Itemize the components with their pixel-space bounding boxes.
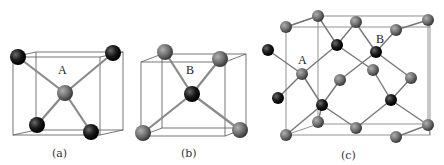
gray-atom-A: [57, 85, 73, 101]
gray-atom: [135, 125, 151, 141]
dark-atom: [10, 49, 26, 65]
caption-a: (a): [52, 147, 67, 160]
gray-atom: [232, 122, 248, 138]
caption-c: (c): [341, 149, 356, 162]
gray-atoms-c: [280, 10, 434, 143]
bonds-c: [268, 16, 428, 137]
dark-atom-B: [184, 86, 200, 102]
gray-atom: [212, 51, 228, 67]
site-label-c-a: A: [298, 53, 307, 68]
crystal-structure-figure: [0, 0, 444, 165]
dark-atom: [83, 124, 99, 140]
site-label-b: B: [186, 63, 194, 78]
dark-atom: [105, 45, 121, 61]
caption-b: (b): [181, 147, 197, 160]
site-label-c-b: B: [376, 32, 384, 47]
panel-c: [262, 10, 434, 143]
panel-a: [10, 45, 123, 140]
gray-atom: [157, 44, 173, 60]
dark-atom: [29, 117, 45, 133]
site-label-a: A: [58, 63, 67, 78]
panel-b: [135, 44, 248, 141]
